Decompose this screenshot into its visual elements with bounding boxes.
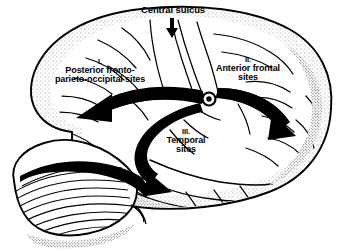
region-2-line2: sites — [196, 73, 300, 82]
region-label-1: I. Posterior fronto- parieto-occipital s… — [30, 58, 170, 84]
region-label-3: III. Temporal sites — [140, 128, 232, 154]
region-3-line2: sites — [140, 145, 232, 154]
region-1-line2: parieto-occipital sites — [30, 75, 170, 84]
brain-diagram-figure: Central sulcus I. Posterior fronto- pari… — [0, 0, 341, 251]
central-convergence-node — [201, 91, 216, 106]
brain-illustration — [0, 0, 341, 251]
region-label-2: II. Anterior frontal sites — [196, 56, 300, 82]
central-sulcus-label: Central sulcus — [118, 5, 228, 15]
